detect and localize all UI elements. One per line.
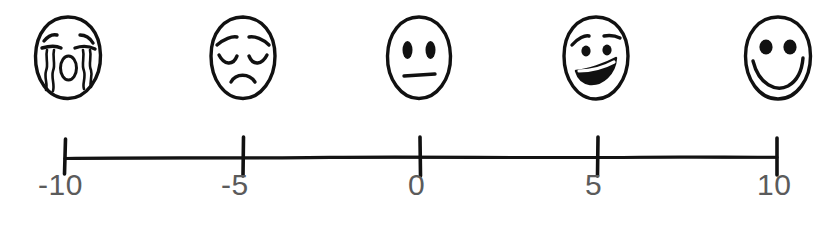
tick-label-zero: 0 — [408, 168, 425, 202]
crying-face — [27, 8, 109, 108]
tick-label-five: 5 — [585, 168, 602, 202]
slightly-happy-face — [555, 8, 637, 108]
tick-label-ten: 10 — [757, 168, 791, 202]
happy-face — [737, 8, 819, 108]
tick-label-minus-5: -5 — [221, 168, 249, 202]
sad-face — [202, 8, 284, 108]
tick-label-minus-10: -10 — [38, 168, 83, 202]
emotion-rating-scale: -10 -5 0 5 10 — [0, 0, 838, 225]
neutral-face — [378, 8, 460, 108]
tick-label-row: -10 -5 0 5 10 — [0, 168, 838, 218]
face-row — [0, 0, 838, 120]
